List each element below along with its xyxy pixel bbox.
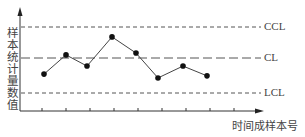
data-point-marker	[84, 63, 90, 69]
x-axis-arrow-icon	[255, 109, 264, 114]
data-point-marker	[204, 73, 210, 79]
ccl-label: CCL	[264, 20, 285, 32]
y-axis-label: 样本统计量数值	[3, 27, 17, 111]
data-point-marker	[133, 50, 139, 56]
data-point-marker	[41, 71, 47, 77]
x-axis-label: 时间成样本号	[232, 117, 298, 133]
data-point-marker	[109, 34, 115, 40]
lcl-label: LCL	[264, 86, 285, 98]
cl-label: CL	[264, 51, 278, 63]
data-point-marker	[63, 52, 69, 58]
y-axis-arrow-icon	[18, 7, 23, 16]
data-point-marker	[180, 63, 186, 69]
data-line	[44, 37, 207, 78]
data-points	[41, 34, 210, 81]
data-point-marker	[155, 75, 161, 81]
